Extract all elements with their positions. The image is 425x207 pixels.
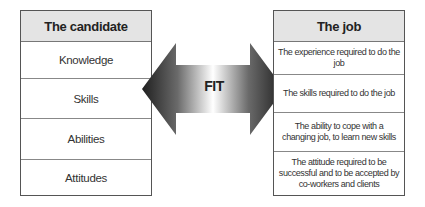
job-row-ability: The ability to cope with a changing job,… <box>274 113 404 152</box>
candidate-row-skills: Skills <box>21 79 151 119</box>
candidate-header: The candidate <box>21 11 151 42</box>
candidate-table: The candidate Knowledge Skills Abilities… <box>20 10 152 196</box>
job-row-attitude: The attitude required to be successful a… <box>274 152 404 195</box>
job-table: The job The experience required to do th… <box>273 10 405 196</box>
job-row-skills: The skills required to do the job <box>274 75 404 113</box>
job-row-experience: The experience required to do the job <box>274 42 404 75</box>
job-header: The job <box>274 11 404 42</box>
fit-label: FIT <box>194 78 234 94</box>
candidate-row-knowledge: Knowledge <box>21 42 151 79</box>
candidate-row-abilities: Abilities <box>21 119 151 160</box>
candidate-row-attitudes: Attitudes <box>21 160 151 195</box>
